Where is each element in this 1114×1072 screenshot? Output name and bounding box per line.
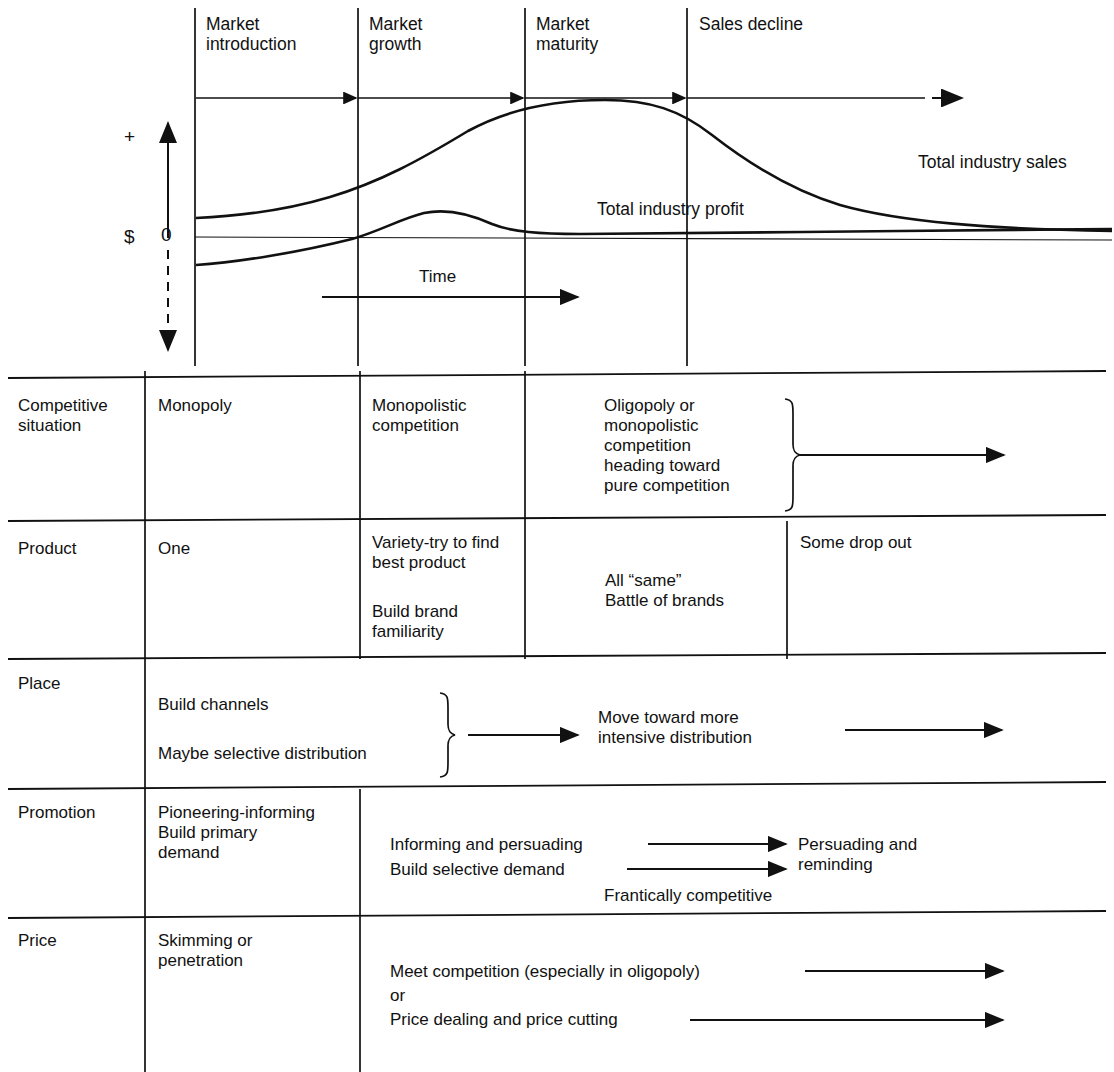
- cs-brace: [785, 399, 800, 511]
- cell-price-dealing: Price dealing and price cutting: [390, 1010, 618, 1030]
- cell-place-intensive-distribution: Move toward more intensive distribution: [598, 708, 752, 748]
- row-header-promotion: Promotion: [18, 803, 95, 823]
- cell-promotion-intro: Pioneering-informing Build primary deman…: [158, 803, 315, 863]
- cell-promotion-selective-demand: Build selective demand: [390, 860, 565, 880]
- cell-product-decline: Some drop out: [800, 533, 912, 553]
- cell-product-growth-brand: Build brand familiarity: [372, 602, 458, 642]
- rule-place: [8, 653, 1106, 659]
- cell-price-meet-competition: Meet competition (especially in oligopol…: [390, 962, 700, 982]
- cell-product-growth-variety: Variety-try to find best product: [372, 533, 499, 573]
- row-header-price: Price: [18, 931, 57, 951]
- row-header-place: Place: [18, 674, 61, 694]
- product-life-cycle-figure: Market introduction Market growth Market…: [0, 0, 1114, 1072]
- place-brace: [440, 693, 455, 777]
- cell-place-build-channels: Build channels: [158, 695, 269, 715]
- cell-competitive-maturity: Oligopoly or monopolistic competition he…: [604, 396, 730, 495]
- cell-product-maturity: All “same” Battle of brands: [605, 571, 724, 611]
- cell-price-or: or: [390, 986, 405, 1006]
- cell-promotion-informing: Informing and persuading: [390, 835, 583, 855]
- cell-price-intro: Skimming or penetration: [158, 931, 252, 971]
- cell-promotion-persuading: Persuading and reminding: [798, 835, 917, 875]
- rule-promotion: [8, 782, 1106, 789]
- rule-product: [8, 515, 1106, 521]
- row-header-product: Product: [18, 539, 77, 559]
- strategy-table: [0, 0, 1114, 1072]
- cell-competitive-growth: Monopolistic competition: [372, 396, 467, 436]
- rule-price: [8, 911, 1106, 918]
- cell-product-intro: One: [158, 539, 190, 559]
- cell-place-selective-distribution: Maybe selective distribution: [158, 744, 367, 764]
- cell-competitive-intro: Monopoly: [158, 396, 232, 416]
- cell-promotion-frantically: Frantically competitive: [604, 886, 772, 906]
- row-header-competitive-situation: Competitive situation: [18, 396, 108, 436]
- rule-top: [8, 371, 1106, 378]
